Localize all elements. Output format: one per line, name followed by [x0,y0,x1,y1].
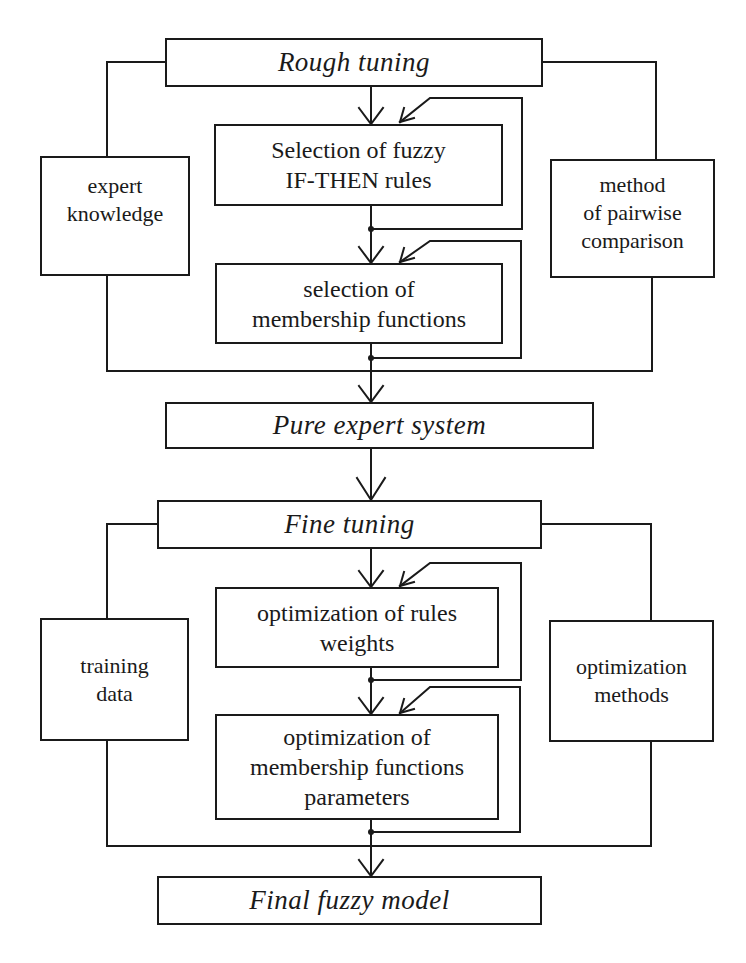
selection-membership-line2: membership functions [252,304,466,334]
junction-dot [368,677,374,683]
expert-knowledge-box: expert knowledge [40,156,190,276]
pairwise-line2: of pairwise [581,199,684,227]
optimization-rules-line2: weights [257,628,457,658]
final-fuzzy-model-label: Final fuzzy model [249,885,449,916]
optimization-rules-weights-box: optimization of rules weights [215,587,499,668]
rough-tuning-box: Rough tuning [165,38,543,87]
pairwise-comparison-box: method of pairwise comparison [550,159,715,278]
training-data-box: training data [40,618,189,741]
optimization-methods-line2: methods [576,681,687,709]
training-data-line1: training [80,652,148,680]
expert-knowledge-line2: knowledge [67,200,164,228]
selection-rules-box: Selection of fuzzy IF-THEN rules [214,124,503,206]
optimization-membership-line3: parameters [250,782,464,812]
selection-rules-line1: Selection of fuzzy [271,135,446,165]
selection-membership-box: selection of membership functions [215,263,503,344]
optimization-methods-box: optimization methods [549,620,714,742]
fine-tuning-box: Fine tuning [157,500,542,549]
training-data-line2: data [80,680,148,708]
optimization-rules-line1: optimization of rules [257,598,457,628]
optimization-membership-line2: membership functions [250,752,464,782]
junction-dot [368,829,374,835]
final-fuzzy-model-box: Final fuzzy model [157,876,542,925]
pairwise-line1: method [581,171,684,199]
expert-knowledge-line1: expert [67,172,164,200]
pure-expert-system-label: Pure expert system [273,410,486,441]
optimization-methods-line1: optimization [576,653,687,681]
pairwise-line3: comparison [581,227,684,255]
fine-tuning-label: Fine tuning [284,509,415,540]
selection-membership-line1: selection of [252,274,466,304]
optimization-membership-line1: optimization of [250,722,464,752]
optimization-membership-params-box: optimization of membership functions par… [215,714,499,820]
rough-tuning-label: Rough tuning [278,47,430,78]
selection-rules-line2: IF-THEN rules [271,165,446,195]
junction-dot [368,226,374,232]
junction-dot [368,355,374,361]
pure-expert-system-box: Pure expert system [165,402,594,449]
